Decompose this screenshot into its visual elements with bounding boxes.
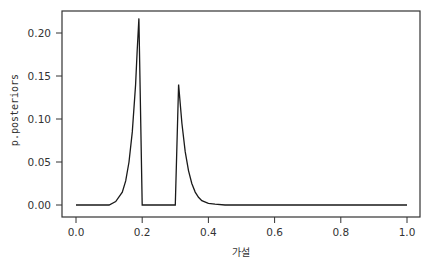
x-tick-label: 0.6 xyxy=(266,226,283,238)
y-tick-label: 0.20 xyxy=(28,27,51,39)
x-tick-label: 0.4 xyxy=(200,226,217,238)
x-tick-label: 0.0 xyxy=(68,226,85,238)
y-axis: 0.000.050.100.150.20 xyxy=(28,27,62,211)
y-axis-title: p.posteriors xyxy=(9,74,20,146)
y-tick-label: 0.00 xyxy=(28,199,51,211)
posterior-chart: 0.000.050.100.150.20 0.00.20.40.60.81.0 … xyxy=(0,0,428,269)
y-tick-label: 0.10 xyxy=(28,113,51,125)
x-tick-label: 0.8 xyxy=(332,226,349,238)
x-tick-label: 1.0 xyxy=(399,226,416,238)
x-tick-label: 0.2 xyxy=(134,226,151,238)
plot-frame xyxy=(62,11,420,217)
y-tick-label: 0.15 xyxy=(28,70,51,82)
y-tick-label: 0.05 xyxy=(28,156,51,168)
x-axis-title: 가설 xyxy=(232,247,250,258)
posterior-line xyxy=(76,18,407,205)
x-axis: 0.00.20.40.60.81.0 xyxy=(68,217,416,238)
